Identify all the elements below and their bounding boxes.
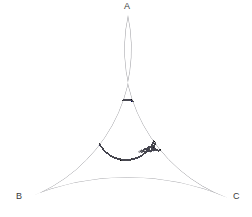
vertex-label-a: A bbox=[124, 2, 130, 11]
apollonian-gasket-figure: A B C bbox=[0, 0, 252, 217]
gasket-circles-layer bbox=[27, 15, 228, 198]
vertex-label-c: C bbox=[233, 192, 240, 201]
vertex-label-b: B bbox=[16, 192, 22, 201]
gasket-drawing bbox=[0, 0, 252, 217]
